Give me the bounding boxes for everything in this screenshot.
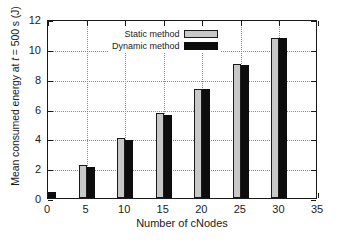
bar-dynamic-10	[125, 140, 133, 198]
y-axis-tick	[48, 81, 53, 82]
x-axis-label: Number of cNodes	[47, 217, 317, 229]
x-axis-tick-label: 25	[225, 204, 255, 215]
legend-item-static: Static method	[112, 29, 218, 39]
bar-dynamic-30	[279, 38, 287, 198]
y-axis-tick	[48, 170, 53, 171]
y-axis-tick	[311, 81, 316, 82]
y-axis-tick-label: 12	[11, 15, 41, 26]
legend-label-dynamic: Dynamic method	[112, 41, 180, 51]
x-axis-tick	[164, 21, 165, 26]
legend-item-dynamic: Dynamic method	[112, 41, 218, 51]
plot-area: Static method Dynamic method	[47, 20, 317, 199]
x-axis-tick	[318, 21, 319, 26]
chart-legend: Static method Dynamic method	[109, 27, 221, 53]
bar-dynamic-20	[202, 89, 210, 198]
y-axis-tick-label: 10	[11, 45, 41, 56]
x-axis-tick-label: 30	[263, 204, 293, 215]
y-axis-tick	[48, 200, 53, 201]
y-axis-tick-label: 4	[11, 134, 41, 145]
x-axis-tick	[87, 21, 88, 26]
y-axis-tick	[311, 140, 316, 141]
x-axis-tick	[125, 21, 126, 26]
y-axis-tick	[48, 111, 53, 112]
y-axis-tick-label: 8	[11, 75, 41, 86]
x-axis-tick	[279, 21, 280, 26]
x-axis-tick	[318, 193, 319, 198]
bar-static-10	[117, 138, 125, 198]
x-axis-tick-label: 10	[109, 204, 139, 215]
y-axis-tick	[311, 170, 316, 171]
x-axis-tick	[48, 21, 49, 26]
y-axis-tick	[311, 21, 316, 22]
y-axis-tick	[311, 111, 316, 112]
x-axis-tick-label: 0	[32, 204, 62, 215]
chart-figure: Mean consumed energy at t = 500 s (J) 02…	[0, 0, 337, 249]
bar-dynamic-25	[241, 65, 249, 199]
legend-label-static: Static method	[125, 29, 180, 39]
x-axis-tick	[202, 21, 203, 26]
x-axis-tick	[241, 21, 242, 26]
y-axis-tick-label: 6	[11, 105, 41, 116]
x-axis-tick-label: 35	[302, 204, 332, 215]
y-axis-tick	[48, 140, 53, 141]
bar-static-20	[194, 89, 202, 198]
bar-dynamic-15	[164, 115, 172, 198]
y-axis-tick	[48, 51, 53, 52]
y-axis-tick-label: 2	[11, 164, 41, 175]
y-axis-label-variable: t	[9, 58, 21, 61]
y-axis-tick	[311, 200, 316, 201]
y-axis-tick	[311, 51, 316, 52]
legend-swatch-static	[184, 30, 218, 38]
bar-dynamic-0	[48, 192, 56, 198]
bar-static-15	[156, 113, 164, 198]
bar-static-5	[79, 165, 87, 198]
x-axis-tick-label: 5	[71, 204, 101, 215]
legend-swatch-dynamic	[184, 42, 218, 50]
x-axis-tick-label: 15	[148, 204, 178, 215]
x-axis-tick-label: 20	[186, 204, 216, 215]
bar-static-30	[271, 38, 279, 198]
bar-static-25	[233, 64, 241, 198]
bar-dynamic-5	[87, 167, 95, 198]
